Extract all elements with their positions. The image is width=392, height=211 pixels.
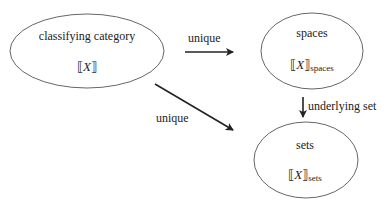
- symbol-x: X: [83, 59, 91, 74]
- node-sets-ellipse: [254, 122, 358, 198]
- edge-label-unique-1: unique: [188, 32, 221, 44]
- subscript-spaces: spaces: [310, 63, 334, 73]
- node-spaces-title: spaces: [296, 27, 327, 39]
- node-sets-symbol: ⟦X⟧sets: [288, 168, 321, 183]
- node-spaces-symbol: ⟦X⟧spaces: [290, 58, 333, 73]
- close-bracket: ⟧: [91, 59, 97, 74]
- node-spaces-ellipse: [261, 13, 363, 89]
- symbol-x: X: [296, 57, 304, 72]
- edge-label-underlying-set: underlying set: [308, 100, 376, 112]
- node-classifying-ellipse: [10, 14, 164, 88]
- edge-label-unique-2: unique: [156, 112, 189, 124]
- node-classifying-title: classifying category: [39, 30, 135, 42]
- symbol-x: X: [294, 167, 302, 182]
- subscript-sets: sets: [308, 173, 322, 183]
- node-classifying-symbol: ⟦X⟧: [77, 60, 97, 73]
- node-sets-title: sets: [296, 139, 314, 151]
